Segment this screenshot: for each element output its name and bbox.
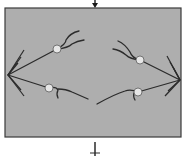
lower-left-joint-icon [45, 84, 53, 92]
diagram-panel [5, 8, 181, 137]
lower-right-joint-icon [134, 88, 142, 96]
upper-right-joint-icon [136, 56, 144, 64]
output-stem-icon [90, 142, 100, 156]
input-arrow-icon [92, 0, 98, 8]
upper-left-joint-icon [53, 45, 61, 53]
mechanism-diagram [0, 0, 182, 156]
